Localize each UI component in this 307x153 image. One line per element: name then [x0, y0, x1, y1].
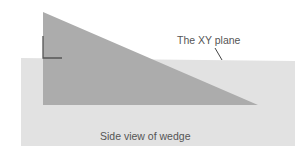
figure-caption: Side view of wedge [100, 131, 190, 142]
plane-leader-line [215, 48, 222, 60]
wedge-triangle [43, 12, 258, 105]
xy-plane-label: The XY plane [177, 35, 240, 46]
wedge-diagram: The XY plane Side view of wedge [0, 0, 307, 153]
